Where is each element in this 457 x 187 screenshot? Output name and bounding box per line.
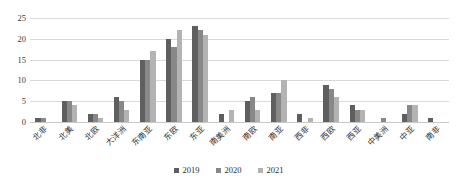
x-axis-tick: 南亚 [266,122,292,162]
bar-2021 [255,110,260,122]
x-axis-tick-label: 东亚 [189,125,206,142]
x-axis-tick-label: 西欧 [320,125,337,142]
bar-2021 [281,80,286,122]
x-axis-tick-label: 南非 [425,125,442,142]
bar-group [423,18,449,122]
x-axis-tick: 南非 [423,122,449,162]
bar-group [213,18,239,122]
bar-2021 [334,97,339,122]
legend-label: 2019 [183,166,200,175]
bar-group [240,18,266,122]
x-axis-tick-label: 西非 [294,125,311,142]
bar-chart: 0510152025 北非北美北欧大洋洲东南亚东欧东亚南美洲南欧南亚西非西欧西亚… [0,0,457,187]
bar-2021 [150,51,155,122]
x-axis-tick: 东欧 [161,122,187,162]
bar-group [56,18,82,122]
x-axis-tick: 西非 [292,122,318,162]
x-axis-tick-label: 东欧 [163,125,180,142]
bar-2021 [177,30,182,122]
bar-group [344,18,370,122]
bar-group [82,18,108,122]
x-axis-tick-label: 北非 [32,125,49,142]
legend-label: 2020 [225,166,242,175]
bar-2021 [229,110,234,122]
x-axis-tick-label: 中美洲 [367,125,390,148]
x-axis-tick: 南美洲 [213,122,239,162]
x-axis-tick: 南欧 [240,122,266,162]
legend-item-2021[interactable]: 2021 [258,166,284,175]
bar-2019 [219,114,224,122]
x-axis-tick-label: 中亚 [398,125,415,142]
legend-label: 2021 [267,166,284,175]
bar-group [30,18,56,122]
x-axis-tick-label: 南亚 [267,125,284,142]
y-axis-tick-label: 5 [22,97,26,106]
legend-swatch-icon [216,168,221,173]
x-axis-tick: 中美洲 [370,122,396,162]
bar-group [292,18,318,122]
bar-2019 [297,114,302,122]
x-axis-tick-label: 北欧 [84,125,101,142]
legend-swatch-icon [174,168,179,173]
x-axis-tick-label: 北美 [58,125,75,142]
bar-group [397,18,423,122]
x-axis-tick-label: 南欧 [241,125,258,142]
legend-swatch-icon [258,168,263,173]
bar-2021 [72,105,77,122]
x-axis-tick-label: 大洋洲 [105,125,128,148]
x-axis-tick: 北美 [56,122,82,162]
x-axis: 北非北美北欧大洋洲东南亚东欧东亚南美洲南欧南亚西非西欧西亚中美洲中亚南非 [30,122,449,162]
y-axis-tick-label: 10 [18,76,27,85]
bar-2021 [203,35,208,122]
plot-area [30,18,449,122]
y-axis-tick-label: 15 [18,55,27,64]
y-axis-tick-label: 25 [18,14,27,23]
chart-legend: 201920202021 [0,166,457,175]
y-axis: 0510152025 [0,18,26,122]
bar-group [187,18,213,122]
bar-2021 [412,105,417,122]
bar-group [135,18,161,122]
bar-groups [30,18,449,122]
bar-group [161,18,187,122]
x-axis-tick-label: 西亚 [346,125,363,142]
legend-item-2020[interactable]: 2020 [216,166,242,175]
x-axis-tick-label: 南美洲 [209,125,232,148]
bar-group [109,18,135,122]
x-axis-tick: 东南亚 [135,122,161,162]
y-axis-tick-label: 0 [22,118,26,127]
bar-group [266,18,292,122]
bar-2021 [360,110,365,122]
bar-group [318,18,344,122]
y-axis-tick-label: 20 [18,35,27,44]
x-axis-tick: 西欧 [318,122,344,162]
legend-item-2019[interactable]: 2019 [174,166,200,175]
x-axis-tick: 中亚 [397,122,423,162]
bar-2021 [124,110,129,122]
x-axis-tick: 北非 [30,122,56,162]
x-axis-tick-label: 东南亚 [131,125,154,148]
bar-group [370,18,396,122]
